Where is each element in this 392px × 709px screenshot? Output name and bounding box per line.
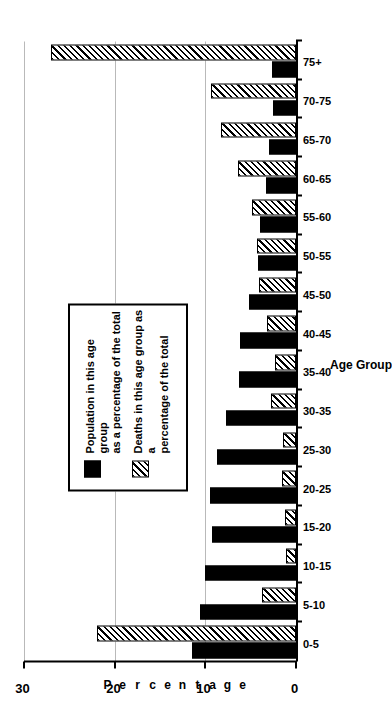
category-label: 40-45 <box>303 327 331 339</box>
category-tick <box>296 39 302 41</box>
bar-deaths <box>283 432 296 448</box>
y-axis-title-letter: r <box>135 678 140 693</box>
bar-group <box>24 509 296 542</box>
category-label: 35-40 <box>303 365 331 377</box>
x-axis-title: Age Group <box>330 357 392 371</box>
value-tick <box>23 661 25 668</box>
bar-population <box>260 216 296 232</box>
bar-deaths <box>51 44 296 60</box>
bar-deaths <box>238 160 296 176</box>
category-label: 65-70 <box>303 133 331 145</box>
y-axis-title-letter: n <box>179 678 186 693</box>
bar-deaths <box>286 548 296 564</box>
value-tick <box>114 661 116 668</box>
y-axis-title: Percentage <box>100 677 250 693</box>
bar-deaths <box>97 625 296 641</box>
category-tick <box>296 233 302 235</box>
legend-item-population: Population in this age group as a percen… <box>84 305 123 477</box>
category-label: 10-15 <box>303 559 331 571</box>
bar-deaths <box>259 277 296 293</box>
category-label: 30-35 <box>303 404 331 416</box>
bar-deaths <box>285 509 296 525</box>
bar-population <box>273 100 296 116</box>
legend: Population in this age group as a percen… <box>68 303 188 491</box>
bar-group <box>24 238 296 271</box>
solid-black-swatch-icon <box>84 460 101 477</box>
category-label: 0-5 <box>303 637 319 649</box>
value-tick-label: 30 <box>6 681 40 696</box>
bar-deaths <box>282 470 296 486</box>
value-tick <box>295 661 297 668</box>
category-label: 25-30 <box>303 443 331 455</box>
bar-deaths <box>211 83 296 99</box>
bar-population <box>210 487 296 503</box>
category-tick <box>296 582 302 584</box>
category-label: 75+ <box>303 55 322 67</box>
category-tick <box>296 427 302 429</box>
bar-population <box>272 61 296 77</box>
bar-population <box>217 449 296 465</box>
bar-population <box>226 410 296 426</box>
bar-group <box>24 199 296 232</box>
category-tick <box>296 117 302 119</box>
category-label: 5-10 <box>303 598 325 610</box>
y-axis-title-letter: e <box>164 678 171 693</box>
bar-group <box>24 160 296 193</box>
value-tick <box>204 661 206 668</box>
category-label: 45-50 <box>303 288 331 300</box>
y-axis-title-letter: t <box>196 678 200 693</box>
category-tick <box>296 155 302 157</box>
y-axis-title-letter: P <box>103 678 111 693</box>
bar-population <box>240 332 296 348</box>
category-label: 55-60 <box>303 210 331 222</box>
category-label: 15-20 <box>303 520 331 532</box>
bar-group <box>24 44 296 77</box>
bar-deaths <box>262 587 296 603</box>
bar-deaths <box>257 238 296 254</box>
bar-population <box>258 255 296 271</box>
category-tick <box>296 272 302 274</box>
bar-group <box>24 548 296 581</box>
category-tick <box>296 543 302 545</box>
category-tick <box>296 310 302 312</box>
y-axis-title-letter: g <box>224 678 231 693</box>
category-tick <box>296 620 302 622</box>
bar-population <box>212 526 296 542</box>
bar-group <box>24 587 296 620</box>
y-axis-title-letter: e <box>119 678 126 693</box>
y-axis-title-letter: a <box>209 678 216 693</box>
category-tick <box>296 388 302 390</box>
category-label: 70-75 <box>303 94 331 106</box>
bar-population <box>249 294 296 310</box>
category-label: 50-55 <box>303 249 331 261</box>
category-tick <box>296 504 302 506</box>
category-tick <box>296 349 302 351</box>
bar-population <box>266 177 296 193</box>
bar-population <box>200 604 296 620</box>
bar-group <box>24 625 296 658</box>
legend-label-population: Population in this age group as a percen… <box>84 305 123 453</box>
bar-group <box>24 83 296 116</box>
category-tick <box>296 78 302 80</box>
category-tick <box>296 465 302 467</box>
bar-deaths <box>271 393 296 409</box>
bar-deaths <box>267 315 296 331</box>
legend-item-deaths: Deaths in this age group as a percentage… <box>132 305 171 477</box>
bar-population <box>269 139 296 155</box>
y-axis-title-letter: c <box>149 678 156 693</box>
bar-population <box>239 371 296 387</box>
value-tick-label: 0 <box>278 681 312 696</box>
category-label: 60-65 <box>303 172 331 184</box>
bar-population <box>205 565 296 581</box>
y-axis-title-letter: e <box>239 678 246 693</box>
hatched-swatch-icon <box>132 460 149 477</box>
bar-group <box>24 122 296 155</box>
bar-population <box>192 642 296 658</box>
category-tick <box>296 194 302 196</box>
category-label: 20-25 <box>303 482 331 494</box>
bar-deaths <box>221 122 296 138</box>
bar-deaths <box>252 199 296 215</box>
legend-label-deaths: Deaths in this age group as a percentage… <box>132 305 171 453</box>
